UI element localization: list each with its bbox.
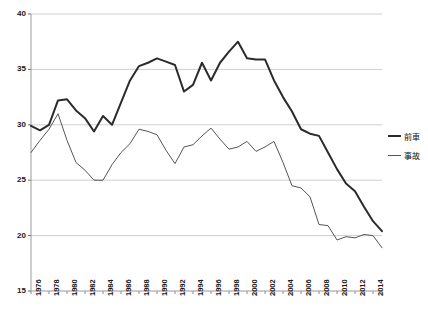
x-axis-tick-label: 1982 xyxy=(88,279,97,296)
y-axis-tick-label: 35 xyxy=(4,64,26,73)
x-axis-tick-label: 1994 xyxy=(196,279,205,296)
x-axis-tick-label: 1988 xyxy=(142,279,151,296)
x-axis-tick-label: 1978 xyxy=(52,279,61,296)
x-axis-tick-label: 2008 xyxy=(322,279,331,296)
legend-item[interactable]: 事故 xyxy=(388,148,420,162)
x-axis-tick-label: 1992 xyxy=(178,279,187,296)
series-line-0 xyxy=(31,42,382,231)
x-axis-tick-label: 2012 xyxy=(358,279,367,296)
x-axis-tick-label: 2006 xyxy=(304,279,313,296)
x-axis-tick-label: 1996 xyxy=(214,279,223,296)
y-axis-tick-label: 20 xyxy=(4,231,26,240)
y-axis-tick-label: 15 xyxy=(4,286,26,295)
legend-line-icon xyxy=(388,155,401,156)
x-axis-tick-label: 1986 xyxy=(124,279,133,296)
legend-item[interactable]: 前車 xyxy=(388,129,420,143)
x-axis-tick-label: 2014 xyxy=(376,279,385,296)
chart-legend: 前車事故 xyxy=(388,129,420,167)
legend-label: 前車 xyxy=(404,131,420,142)
x-axis-tick-label: 1976 xyxy=(34,279,43,296)
x-axis-tick-label: 2004 xyxy=(286,279,295,296)
legend-line-icon xyxy=(388,135,401,137)
x-axis-tick-label: 2002 xyxy=(268,279,277,296)
gridlines xyxy=(31,14,382,236)
x-axis-tick-label: 1984 xyxy=(106,279,115,296)
y-axis-tick-label: 40 xyxy=(4,9,26,18)
line-chart: 403530252015 197619781980198219841986198… xyxy=(0,0,428,329)
legend-label: 事故 xyxy=(404,150,420,161)
y-axis-tick-label: 30 xyxy=(4,120,26,129)
x-axis-tick-label: 1990 xyxy=(160,279,169,296)
x-axis-tick-label: 2000 xyxy=(250,279,259,296)
data-series xyxy=(31,42,382,248)
x-axis-tick-label: 1980 xyxy=(70,279,79,296)
x-axis-tick-label: 1998 xyxy=(232,279,241,296)
series-line-1 xyxy=(31,114,382,248)
x-axis-tick-label: 2010 xyxy=(340,279,349,296)
y-axis-tick-label: 25 xyxy=(4,175,26,184)
